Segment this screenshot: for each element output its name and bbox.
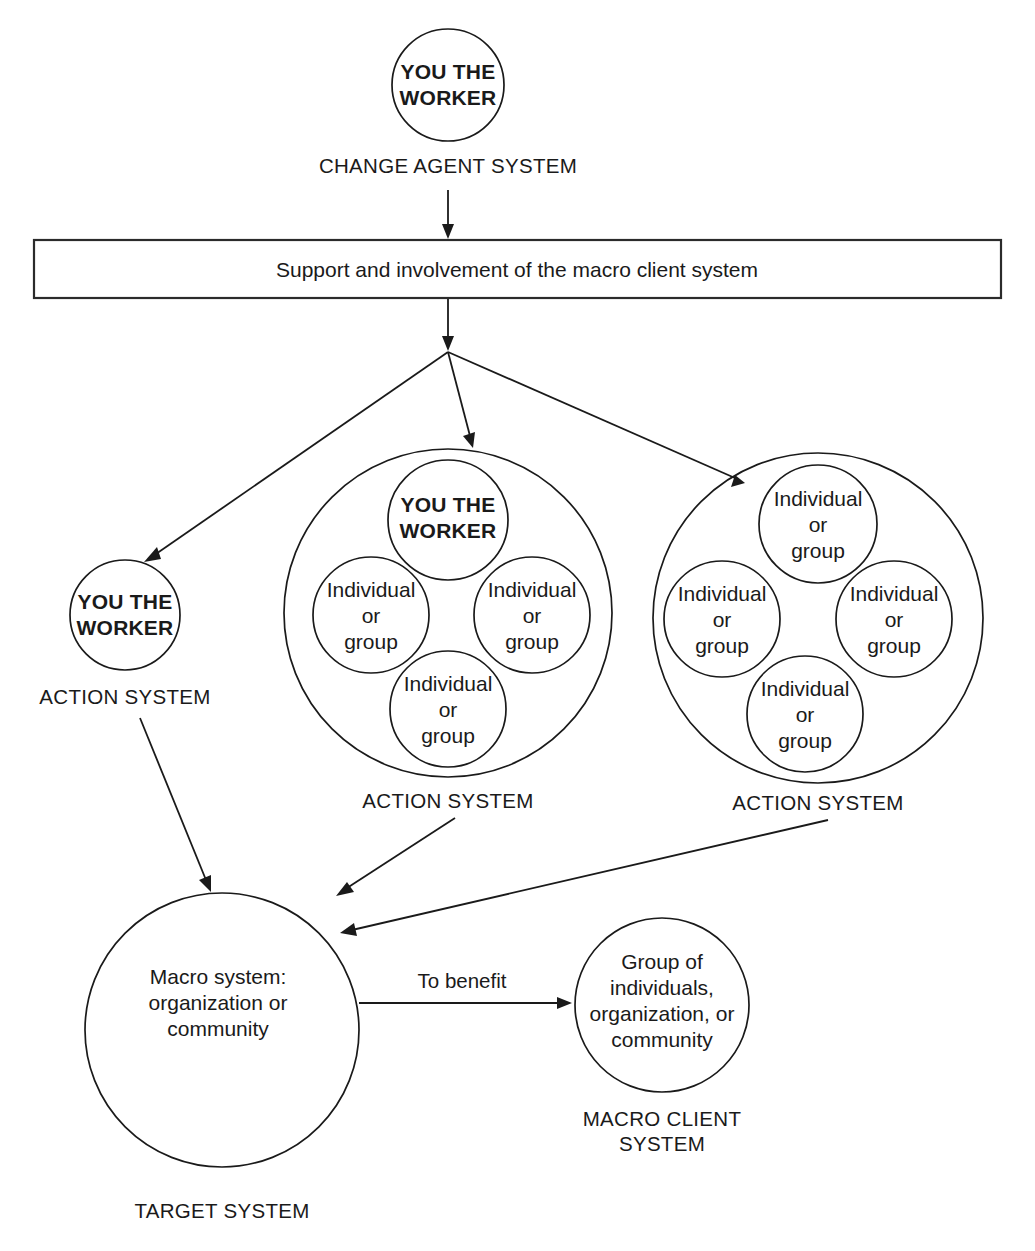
diagram-canvas: YOU THE WORKER CHANGE AGENT SYSTEM Suppo…: [0, 0, 1035, 1251]
right-action-system-circle: [653, 453, 983, 783]
connector-right-action-to-target: [352, 820, 828, 930]
arrowhead-right-action-to-target: [340, 923, 357, 936]
right-action-member-circle-4: [747, 656, 863, 772]
right-action-member-circle-1: [759, 465, 877, 583]
support-banner-box: [34, 240, 1001, 298]
arrowhead-left-action-to-target: [199, 875, 211, 892]
target-system-circle: [85, 893, 359, 1167]
arrowhead-to-benefit: [557, 997, 572, 1009]
arrowhead-middle-action-to-target: [336, 882, 354, 896]
diagram-vector-layer: [0, 0, 1035, 1251]
connector-middle-action-to-target: [347, 818, 455, 888]
arrowhead-hub-to-middle-action: [463, 432, 475, 448]
right-action-member-circle-3: [836, 561, 952, 677]
middle-action-member-circle-2: [313, 557, 429, 673]
connector-hub-to-middle-action: [448, 352, 470, 436]
connector-left-action-to-target: [140, 718, 206, 880]
middle-action-member-circle-4: [390, 651, 506, 767]
macro-client-system-circle: [575, 918, 749, 1092]
arrowhead-agent-to-banner: [442, 224, 454, 239]
connector-hub-to-left-action: [153, 352, 448, 556]
right-action-member-circle-2: [664, 561, 780, 677]
connector-hub-to-right-action: [448, 352, 735, 478]
arrowhead-banner-to-hub: [442, 336, 454, 351]
middle-action-member-circle-3: [474, 557, 590, 673]
middle-action-member-circle-1: [388, 460, 508, 580]
middle-action-system-circle: [284, 449, 612, 777]
change-agent-circle: [392, 29, 504, 141]
arrowhead-hub-to-left-action: [144, 547, 161, 562]
left-action-system-circle: [70, 560, 180, 670]
